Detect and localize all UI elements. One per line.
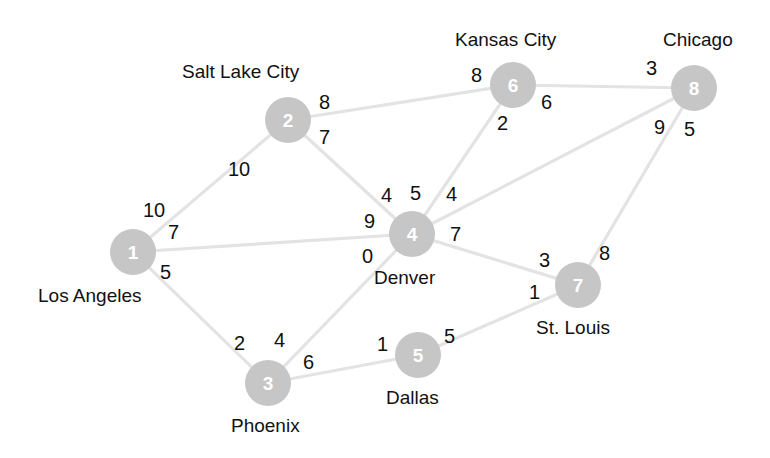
edge-weight: 3: [646, 58, 657, 78]
edge-weight: 0: [362, 246, 373, 266]
graph-node-4[interactable]: 4: [389, 211, 435, 257]
graph-node-7[interactable]: 7: [555, 262, 601, 308]
edge-weight: 6: [541, 92, 552, 112]
edge-weight: 4: [274, 330, 285, 350]
graph-node-2[interactable]: 2: [265, 97, 311, 143]
city-label-6: Kansas City: [455, 30, 556, 49]
edge-weight: 10: [143, 200, 165, 220]
edge-weight: 4: [446, 184, 457, 204]
graph-node-8[interactable]: 8: [671, 65, 717, 111]
edge-weight: 5: [160, 262, 171, 282]
edge-weight: 8: [599, 243, 610, 263]
graph-node-3[interactable]: 3: [245, 360, 291, 406]
edge-weight: 2: [234, 333, 245, 353]
edge-weight: 1: [377, 334, 388, 354]
edge-weight: 5: [410, 183, 421, 203]
edge-weight: 6: [303, 352, 314, 372]
edge-2-4: [288, 120, 412, 234]
city-label-3: Phoenix: [231, 416, 300, 435]
edge-weight: 7: [319, 127, 330, 147]
edge-weight: 8: [319, 92, 330, 112]
city-label-7: St. Louis: [536, 318, 610, 337]
graph-node-6[interactable]: 6: [490, 62, 536, 108]
edge-weight: 1: [529, 282, 540, 302]
edge-1-2: [133, 120, 288, 252]
edge-weight: 10: [228, 159, 250, 179]
edge-weight: 9: [364, 211, 375, 231]
edge-4-7: [412, 234, 578, 285]
city-label-2: Salt Lake City: [182, 62, 299, 81]
edge-weight: 4: [381, 185, 392, 205]
edge-1-3: [133, 252, 268, 383]
edge-weight: 7: [450, 224, 461, 244]
edge-6-8: [513, 85, 694, 88]
edge-weight: 7: [168, 222, 179, 242]
edge-4-6: [412, 85, 513, 234]
edge-weight: 5: [684, 119, 695, 139]
network-graph-canvas: 12345678 1010795274884061524973516385 Lo…: [0, 0, 770, 458]
edge-weight: 2: [497, 113, 508, 133]
graph-node-1[interactable]: 1: [110, 229, 156, 275]
edge-weight: 3: [539, 250, 550, 270]
city-label-5: Dallas: [386, 388, 439, 407]
graph-node-5[interactable]: 5: [395, 332, 441, 378]
city-label-4: Denver: [374, 268, 435, 287]
edge-weight: 8: [471, 65, 482, 85]
city-label-8: Chicago: [663, 30, 733, 49]
edge-weight: 5: [444, 326, 455, 346]
edge-weight: 9: [654, 117, 665, 137]
city-label-1: Los Angeles: [38, 286, 142, 305]
